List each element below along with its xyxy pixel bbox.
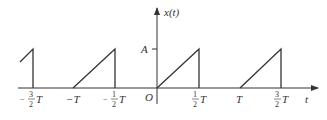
tick-neg-three-halves-T: − 3 2 T: [20, 90, 43, 109]
svg-text:1: 1: [112, 90, 116, 99]
tick-T: T: [236, 93, 243, 105]
y-axis-label: x(t): [163, 6, 180, 19]
svg-text:3: 3: [29, 90, 33, 99]
svg-text:T: T: [282, 93, 289, 105]
svg-text:T: T: [200, 93, 207, 105]
svg-text:2: 2: [29, 100, 33, 109]
tick-neg-half-T: − 1 2 T: [103, 90, 126, 109]
svg-text:T: T: [36, 93, 43, 105]
svg-text:−: −: [20, 95, 25, 104]
svg-text:3: 3: [275, 90, 279, 99]
origin-label: O: [145, 91, 153, 103]
svg-text:−: −: [103, 95, 108, 104]
waveform: [20, 49, 281, 88]
tick-half-T: 1 2 T: [192, 90, 207, 109]
amplitude-label: A: [140, 43, 148, 55]
svg-text:2: 2: [193, 100, 197, 109]
svg-text:2: 2: [112, 100, 116, 109]
svg-text:T: T: [119, 93, 126, 105]
sawtooth-signal-figure: x(t) A O t − 3 2 T −T − 1 2 T 1 2 T T 3 …: [0, 0, 327, 120]
svg-text:1: 1: [193, 90, 197, 99]
svg-text:2: 2: [275, 100, 279, 109]
tick-three-halves-T: 3 2 T: [274, 90, 289, 109]
t-axis-label: t: [305, 93, 309, 105]
tick-neg-T: −T: [66, 93, 80, 105]
